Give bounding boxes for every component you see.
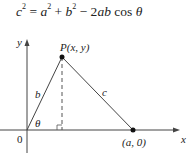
point-a (131, 128, 136, 133)
origin-label: 0 (17, 133, 23, 145)
point-p-label: P(x, y) (60, 41, 89, 53)
y-axis-arrow-icon (25, 39, 30, 46)
y-axis-label: y (17, 36, 22, 48)
x-axis-label: x (181, 133, 186, 145)
triangle-diagram (0, 0, 191, 154)
point-a-label: (a, 0) (122, 136, 146, 148)
side-b-label: b (35, 88, 41, 100)
right-angle-icon (57, 125, 62, 130)
x-axis-arrow-icon (173, 128, 180, 133)
side-c (62, 57, 133, 130)
side-b (27, 57, 62, 130)
side-c-label: c (102, 86, 107, 98)
point-p (60, 55, 65, 60)
angle-theta-label: θ (35, 117, 40, 129)
